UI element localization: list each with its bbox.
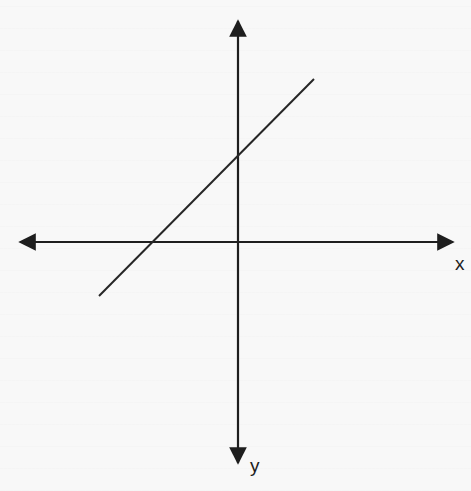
x-axis-label: x bbox=[455, 254, 465, 273]
diagram-canvas: x y bbox=[0, 0, 471, 491]
coordinate-plane bbox=[0, 0, 471, 491]
plotted-line bbox=[99, 79, 314, 296]
y-axis-label: y bbox=[250, 456, 260, 475]
